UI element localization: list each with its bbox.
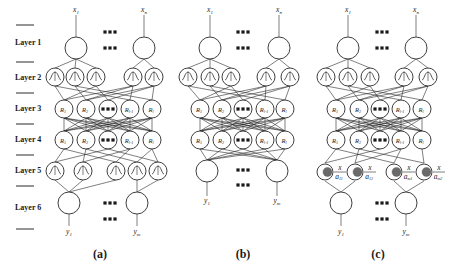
membership-node xyxy=(257,68,275,86)
connection-edge xyxy=(222,86,266,100)
hatched-fill-icon xyxy=(323,168,332,177)
layer-label-3: Layer 3 xyxy=(15,104,41,113)
ellipsis-icon xyxy=(236,183,249,186)
rule-node xyxy=(99,100,117,118)
membership-node xyxy=(317,68,335,86)
connection-edge xyxy=(394,181,406,192)
fraction-denominator: am2 xyxy=(434,172,443,181)
normalization-node: R2 xyxy=(350,131,368,149)
input-node xyxy=(268,37,290,59)
output-node xyxy=(395,192,417,214)
fraction-numerator: x xyxy=(406,163,411,172)
connection-edge xyxy=(422,86,428,100)
connection-edge xyxy=(76,59,96,68)
normalization-node: Rl xyxy=(413,131,431,149)
ellipsis-icon xyxy=(373,107,386,110)
rule-node xyxy=(371,100,389,118)
ellipsis-icon xyxy=(375,30,388,33)
connection-edge xyxy=(152,149,158,162)
fraction-denominator: a11 xyxy=(335,172,342,181)
output-node xyxy=(58,192,80,214)
ellipsis-icon xyxy=(375,217,388,220)
rule-node: R1 xyxy=(55,100,73,118)
ellipsis-icon xyxy=(236,46,249,49)
membership-node xyxy=(179,68,197,86)
neural-network-architecture-figure: Layer 1 Layer 2 Layer 3 Layer 4 Layer 5 … xyxy=(0,0,460,278)
caption-c: (c) xyxy=(371,247,384,261)
hatched-fill-icon xyxy=(353,168,362,177)
normalization-node: R1 xyxy=(191,131,209,149)
rule-node: Rl-1 xyxy=(121,100,139,118)
connection-edge xyxy=(326,86,336,100)
connection-edge xyxy=(200,149,207,160)
normalization-node: Rl-1 xyxy=(121,131,139,149)
layer-label-5: Layer 5 xyxy=(15,166,41,175)
hatched-fill-icon xyxy=(422,168,431,177)
connection-edge xyxy=(243,86,290,100)
membership-node xyxy=(201,68,219,86)
output-node xyxy=(196,160,218,182)
consequent-node: xam1 xyxy=(386,163,415,181)
output-label: y1 xyxy=(203,196,210,206)
membership-node xyxy=(419,68,437,86)
rule-node xyxy=(234,100,252,118)
connection-edge xyxy=(210,86,285,100)
input-label: x1 xyxy=(344,5,351,15)
connection-edge xyxy=(279,59,290,68)
normalization-node: Rl-1 xyxy=(392,131,410,149)
connection-edge xyxy=(326,86,401,100)
rule-node: Rl xyxy=(276,100,294,118)
caption-b: (b) xyxy=(236,247,251,261)
connection-edge xyxy=(325,149,380,163)
output-node xyxy=(330,192,352,214)
normalization-node: Rl xyxy=(143,131,161,149)
ellipsis-icon xyxy=(236,138,249,141)
membership-node xyxy=(145,68,163,86)
output-label: ym xyxy=(273,196,281,206)
rule-node: R1 xyxy=(191,100,209,118)
connection-edge xyxy=(133,59,144,68)
layer-label-2: Layer 2 xyxy=(15,73,41,82)
membership-node xyxy=(361,68,379,86)
input-node xyxy=(199,37,221,59)
connection-edge xyxy=(336,149,394,163)
fraction-numerator: x xyxy=(337,163,342,172)
caption-a: (a) xyxy=(93,247,107,261)
membership-node xyxy=(395,68,413,86)
output-label: ym xyxy=(133,227,141,237)
membership-node xyxy=(281,68,299,86)
output-node xyxy=(266,160,288,182)
connection-edge xyxy=(285,86,290,100)
normalization-node xyxy=(99,131,117,149)
ellipsis-icon xyxy=(103,30,116,33)
layer-axis: Layer 1 Layer 2 Layer 3 Layer 4 Layer 5 … xyxy=(15,25,41,229)
layer-label-4: Layer 4 xyxy=(15,135,41,144)
consequent-node xyxy=(107,162,125,180)
input-label: xn xyxy=(412,5,419,15)
input-label: x1 xyxy=(72,5,79,15)
hatched-fill-icon xyxy=(392,168,401,177)
consequent-node: xa11 xyxy=(317,163,346,181)
fraction-denominator: a12 xyxy=(365,172,373,181)
consequent-node: xa12 xyxy=(347,163,376,181)
connection-edge xyxy=(152,86,154,100)
layer-label-6: Layer 6 xyxy=(15,203,41,212)
connection-edge xyxy=(277,149,285,160)
rule-node: Rl-1 xyxy=(392,100,410,118)
normalization-node xyxy=(371,131,389,149)
consequent-node xyxy=(46,162,64,180)
rule-node: R1 xyxy=(327,100,345,118)
layer-label-1: Layer 1 xyxy=(15,38,41,47)
membership-node xyxy=(87,68,105,86)
output-label: y1 xyxy=(337,227,344,237)
ellipsis-icon xyxy=(103,201,116,204)
connection-edge xyxy=(55,59,76,68)
connection-edge xyxy=(75,59,76,68)
normalization-node: R1 xyxy=(327,131,345,149)
connection-edge xyxy=(144,59,154,68)
connection-edge xyxy=(359,86,404,100)
connection-edge xyxy=(266,59,279,68)
rule-node: R2 xyxy=(77,100,95,118)
input-label: xn xyxy=(140,5,147,15)
connection-edge xyxy=(406,181,424,192)
